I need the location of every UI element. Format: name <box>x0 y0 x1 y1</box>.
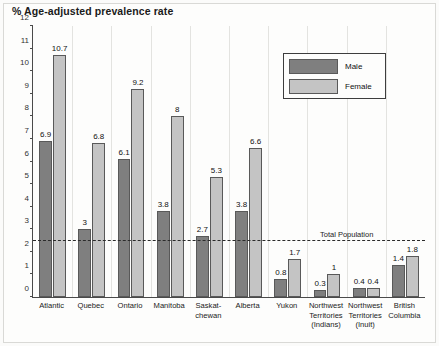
y-axis-tick-label: 0 <box>25 285 29 293</box>
bar-female: 1 <box>327 274 340 297</box>
bar-value-label: 6.6 <box>250 138 261 146</box>
bar-female: 5.3 <box>210 177 223 297</box>
bar-value-label: 3 <box>83 219 87 227</box>
legend-label-female: Female <box>345 83 372 91</box>
x-axis-label-line: Northwest <box>306 301 345 311</box>
bar-value-label: 1.4 <box>393 255 404 263</box>
bar-male: 3.8 <box>157 211 170 297</box>
y-axis-tick-mark <box>30 296 33 297</box>
y-axis-tick-label: 10 <box>20 59 29 67</box>
legend-item-male: Male <box>289 58 380 75</box>
bar-value-label: 10.7 <box>52 45 68 53</box>
y-axis-tick-label: 5 <box>25 172 29 180</box>
y-axis-tick-mark <box>30 251 33 252</box>
y-axis-tick-mark <box>30 70 33 71</box>
bar-value-label: 0.4 <box>354 278 365 286</box>
legend-swatch-female <box>289 79 338 94</box>
x-axis-label: Quebec <box>71 301 110 311</box>
bar-male: 0.4 <box>353 288 366 297</box>
y-axis-tick-mark <box>30 273 33 274</box>
bar-value-label: 3.8 <box>158 201 169 209</box>
chart-legend: Male Female <box>283 53 386 99</box>
y-axis-tick-label: 11 <box>21 37 29 45</box>
x-axis-label-line: Quebec <box>71 301 110 311</box>
x-axis-label: Manitoba <box>150 301 189 311</box>
legend-item-female: Female <box>289 78 380 95</box>
bar-female: 6.8 <box>92 143 105 297</box>
y-axis-tick-label: 4 <box>25 195 29 203</box>
x-axis-label: NorthwestTerritories(Indians) <box>306 301 345 330</box>
y-axis-tick-mark <box>30 161 33 162</box>
y-axis-tick-label: 6 <box>25 150 29 158</box>
bar-male: 0.8 <box>274 279 287 297</box>
bar-value-label: 1.8 <box>407 246 418 254</box>
bar-male: 6.1 <box>118 159 131 297</box>
y-axis-tick-label: 8 <box>25 104 29 112</box>
bar-group: 6.910.7 <box>33 26 72 297</box>
y-axis-tick-label: 12 <box>20 14 29 22</box>
bar-female: 1.8 <box>406 256 419 297</box>
bar-male: 2.7 <box>196 236 209 297</box>
bar-male: 6.9 <box>39 141 52 297</box>
x-axis-label-line: Ontario <box>110 301 149 311</box>
y-axis-tick-mark <box>30 93 33 94</box>
y-axis-tick-label: 9 <box>25 82 29 90</box>
x-axis-label-line: Yukon <box>267 301 306 311</box>
bar-value-label: 6.9 <box>40 131 51 139</box>
bar-value-label: 1.7 <box>289 249 300 257</box>
x-axis-label-line: Alberta <box>228 301 267 311</box>
y-axis-tick-mark <box>30 183 33 184</box>
bar-male: 3.8 <box>235 211 248 297</box>
x-axis-label-line: Territories <box>306 311 345 321</box>
x-axis-label-line: Territories <box>346 311 385 321</box>
bar-value-label: 5.3 <box>211 167 222 175</box>
bar-male: 0.3 <box>314 290 327 297</box>
bar-value-label: 0.3 <box>314 280 325 288</box>
x-axis-label-line: (Inuit) <box>346 320 385 330</box>
x-axis-labels: AtlanticQuebecOntarioManitobaSaskat-chew… <box>32 299 425 345</box>
bar-value-label: 6.8 <box>93 133 104 141</box>
y-axis-tick-mark <box>30 138 33 139</box>
bar-value-label: 0.8 <box>275 269 286 277</box>
x-axis-label-line: British <box>385 301 424 311</box>
bar-value-label: 6.1 <box>118 149 129 157</box>
bar-group: 3.88 <box>151 26 190 297</box>
bar-group: 36.8 <box>72 26 111 297</box>
page-title: % Age-adjusted prevalence rate <box>12 5 173 17</box>
bar-group: 2.75.3 <box>190 26 229 297</box>
x-axis-label: BritishColumbia <box>385 301 424 320</box>
legend-swatch-male <box>289 59 338 74</box>
legend-label-male: Male <box>345 63 362 71</box>
bar-value-label: 3.8 <box>236 201 247 209</box>
bar-female: 8 <box>171 116 184 297</box>
bar-value-label: 9.2 <box>132 79 143 87</box>
total-population-line <box>33 240 425 241</box>
bar-female: 10.7 <box>53 55 66 297</box>
bar-value-label: 0.4 <box>368 278 379 286</box>
chart-page: % Age-adjusted prevalence rate 6.910.736… <box>0 0 439 346</box>
bar-female: 0.4 <box>367 288 380 297</box>
x-axis-label-line: Columbia <box>385 311 424 321</box>
total-population-label: Total Population <box>320 230 373 239</box>
bar-female: 6.6 <box>249 148 262 297</box>
x-axis-label-line: (Indians) <box>306 320 345 330</box>
x-axis-label: Alberta <box>228 301 267 311</box>
x-axis-label: NorthwestTerritories(Inuit) <box>346 301 385 330</box>
bar-male: 1.4 <box>392 265 405 297</box>
bar-value-label: 8 <box>175 106 179 114</box>
x-axis-label-line: Manitoba <box>150 301 189 311</box>
x-axis-label: Yukon <box>267 301 306 311</box>
bar-group: 6.19.2 <box>111 26 150 297</box>
y-axis-tick-mark <box>30 115 33 116</box>
x-axis-label: Saskat-chewan <box>189 301 228 320</box>
x-axis-label-line: Saskat- <box>189 301 228 311</box>
bar-female: 9.2 <box>131 89 144 297</box>
y-axis-tick-label: 1 <box>25 262 29 270</box>
bar-group: 3.86.6 <box>229 26 268 297</box>
bar-value-label: 2.7 <box>197 226 208 234</box>
bar-value-label: 1 <box>332 264 336 272</box>
x-axis-label: Ontario <box>110 301 149 311</box>
y-axis-tick-mark <box>30 48 33 49</box>
y-axis-tick-mark <box>30 25 33 26</box>
bar-female: 1.7 <box>288 259 301 297</box>
